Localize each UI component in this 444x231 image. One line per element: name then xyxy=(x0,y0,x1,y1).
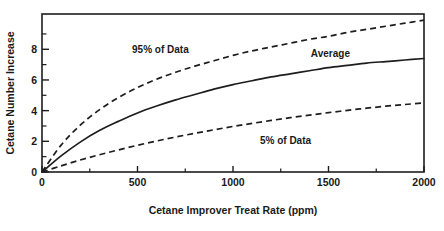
y-tick-label-0: 0 xyxy=(31,166,37,178)
plot-area-background xyxy=(42,14,424,172)
x-tick-label-0: 0 xyxy=(39,176,45,188)
chart-figure: 0500100015002000 02468 95% of DataAverag… xyxy=(0,0,444,231)
x-tick-label-1000: 1000 xyxy=(221,176,245,188)
x-axis-title: Cetane Improver Treat Rate (ppm) xyxy=(149,204,318,216)
y-tick-label-8: 8 xyxy=(31,43,37,55)
series-label-1: Average xyxy=(311,48,351,59)
series-label-0: 95% of Data xyxy=(132,44,189,55)
x-tick-label-1500: 1500 xyxy=(317,176,341,188)
x-tick-label-500: 500 xyxy=(129,176,147,188)
y-tick-label-2: 2 xyxy=(31,135,37,147)
y-tick-label-4: 4 xyxy=(31,105,37,117)
y-axis-title: Cetane Number Increase xyxy=(4,31,16,154)
x-tick-label-2000: 2000 xyxy=(412,176,436,188)
y-tick-label-6: 6 xyxy=(31,74,37,86)
cetane-number-increase-chart: 0500100015002000 02468 95% of DataAverag… xyxy=(0,0,444,231)
series-label-2: 5% of Data xyxy=(260,135,312,146)
